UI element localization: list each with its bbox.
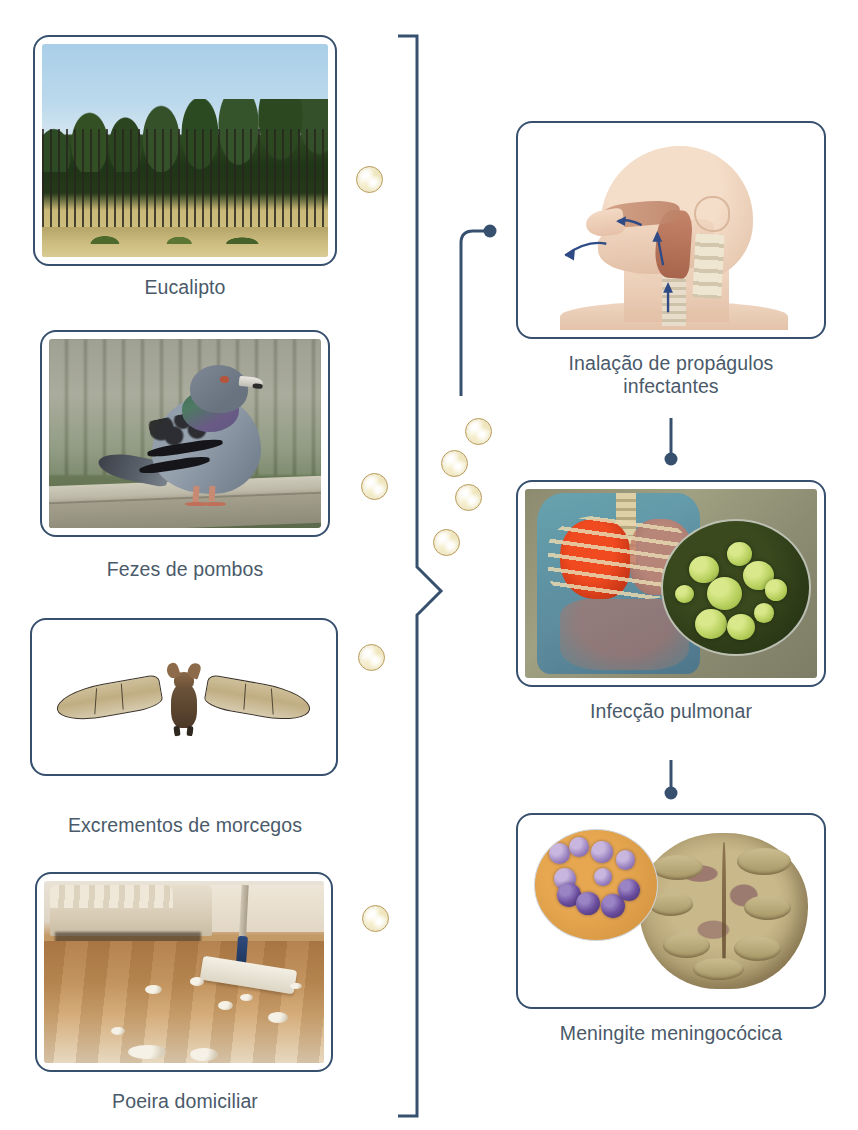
source-card-fezes-pombos[interactable] [40, 330, 330, 537]
head-airway-anatomy-illustration [525, 130, 817, 330]
eucalyptus-plantation-photo [42, 44, 328, 257]
spore-icon-8 [433, 529, 460, 556]
source-label-eucalipto: Eucalipto [33, 276, 337, 299]
pathway-label-inalacao: Inalação de propágulos infectantes [496, 352, 846, 398]
spore-icon-7 [455, 484, 482, 511]
bat-photo [39, 627, 329, 767]
sources-brace [398, 36, 441, 1116]
brain-meningitis-illustration [525, 822, 817, 1000]
spore-icon-2 [361, 473, 388, 500]
pathway-label-infeccao-pulmonar: Infecção pulmonar [496, 700, 846, 723]
brace-to-inhalation-connector [461, 231, 487, 396]
pathway-card-inalacao[interactable] [516, 121, 826, 339]
pathway-card-infeccao-pulmonar[interactable] [516, 480, 826, 687]
diagram-canvas: Eucalipto Fezes de pombos [0, 0, 858, 1130]
source-label-poeira-domiciliar: Poeira domiciliar [33, 1090, 337, 1113]
pathway-label-meningite: Meningite meningocócica [496, 1022, 846, 1045]
pathway-card-meningite[interactable] [516, 813, 826, 1009]
brace-to-inhalation-endpoint-dot [484, 225, 497, 238]
pigeon-photo [49, 339, 321, 528]
source-card-poeira-domiciliar[interactable] [35, 872, 333, 1072]
airflow-arrows [525, 130, 817, 330]
lung-to-meningitis-endpoint-dot [665, 787, 678, 800]
source-label-excrementos-morcegos: Excrementos de morcegos [20, 814, 350, 837]
source-label-fezes-pombos: Fezes de pombos [33, 558, 337, 581]
spore-icon-1 [356, 166, 383, 193]
source-card-eucalipto[interactable] [33, 35, 337, 266]
inhalation-to-lung-endpoint-dot [665, 453, 678, 466]
spore-icon-4 [362, 905, 389, 932]
household-dust-photo [44, 881, 324, 1063]
source-card-excrementos-morcegos[interactable] [30, 618, 338, 776]
spore-icon-5 [465, 418, 492, 445]
spore-icon-3 [358, 644, 385, 671]
spore-icon-6 [441, 450, 468, 477]
lung-infection-illustration [525, 489, 817, 678]
